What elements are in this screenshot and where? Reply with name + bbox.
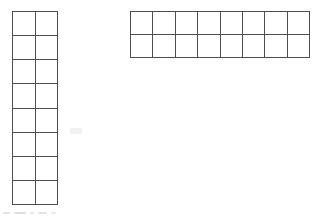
scan-mark: [38, 212, 47, 214]
worksheet-canvas: [0, 0, 323, 217]
grid-cell[interactable]: [288, 12, 310, 35]
grid-cell[interactable]: [265, 12, 287, 35]
grid-cell[interactable]: [36, 181, 59, 205]
grid-cell[interactable]: [13, 157, 36, 181]
scan-artifact-strip: [0, 205, 323, 217]
grid-cell[interactable]: [176, 35, 198, 58]
grid-cell[interactable]: [198, 35, 220, 58]
grid-cell[interactable]: [36, 109, 59, 133]
grid-cell[interactable]: [243, 35, 265, 58]
grid-cell[interactable]: [13, 84, 36, 108]
grid-cell[interactable]: [153, 12, 175, 35]
grid-cell[interactable]: [221, 12, 243, 35]
grid-cell[interactable]: [198, 12, 220, 35]
grid-cell[interactable]: [153, 35, 175, 58]
vertical-grid-figure: [12, 11, 58, 205]
grid-cell[interactable]: [36, 12, 59, 36]
scan-mark: [51, 212, 56, 214]
scan-smudge: [70, 128, 82, 134]
grid-cell[interactable]: [13, 181, 36, 205]
grid-cell[interactable]: [131, 12, 153, 35]
grid-cell[interactable]: [13, 36, 36, 60]
grid-cell[interactable]: [36, 84, 59, 108]
grid-cell[interactable]: [265, 35, 287, 58]
grid-cell[interactable]: [36, 60, 59, 84]
scan-mark: [14, 212, 26, 214]
scan-mark: [3, 212, 10, 214]
horizontal-grid-figure: [130, 11, 310, 58]
grid-cell[interactable]: [221, 35, 243, 58]
grid-cell[interactable]: [36, 133, 59, 157]
grid-cell[interactable]: [13, 12, 36, 36]
grid-cell[interactable]: [13, 133, 36, 157]
grid-cell[interactable]: [176, 12, 198, 35]
grid-cell[interactable]: [243, 12, 265, 35]
grid-cell[interactable]: [13, 60, 36, 84]
grid-cell[interactable]: [288, 35, 310, 58]
grid-cell[interactable]: [13, 109, 36, 133]
grid-cell[interactable]: [131, 35, 153, 58]
scan-mark: [30, 212, 34, 214]
grid-cell[interactable]: [36, 157, 59, 181]
grid-cell[interactable]: [36, 36, 59, 60]
